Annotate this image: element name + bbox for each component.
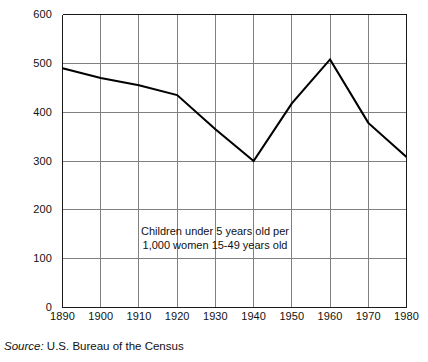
line-chart-plot — [0, 0, 428, 362]
gridlines — [63, 15, 407, 308]
x-tick-1980: 1980 — [385, 311, 428, 322]
y-tick-500: 500 — [8, 58, 52, 69]
annotation-line-2: 1,000 women 15-49 years old — [90, 238, 340, 252]
source-note: Source: U.S. Bureau of the Census — [4, 340, 184, 353]
source-text: U.S. Bureau of the Census — [47, 340, 184, 352]
y-tick-200: 200 — [8, 204, 52, 215]
y-tick-400: 400 — [8, 107, 52, 118]
y-tick-600: 600 — [8, 9, 52, 20]
data-series-line — [63, 59, 407, 161]
source-label: Source: — [4, 340, 44, 352]
y-tick-300: 300 — [8, 156, 52, 167]
chart-annotation: Children under 5 years old per 1,000 wom… — [90, 224, 340, 252]
annotation-line-1: Children under 5 years old per — [90, 224, 340, 238]
y-tick-100: 100 — [8, 253, 52, 264]
chart-figure: 0100200300400500600 18901900191019201930… — [0, 0, 428, 362]
